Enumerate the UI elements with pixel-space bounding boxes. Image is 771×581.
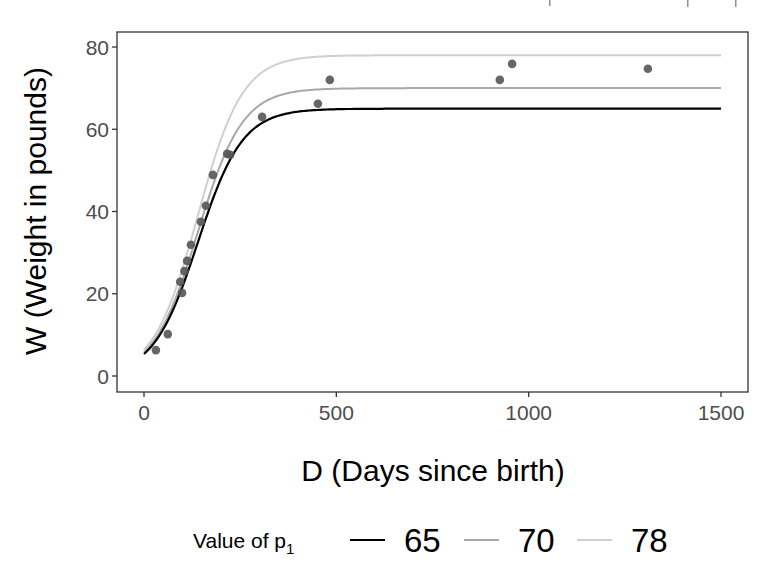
data-points bbox=[152, 60, 653, 355]
data-point bbox=[152, 346, 161, 355]
legend-label: 78 bbox=[631, 522, 668, 559]
data-point bbox=[178, 289, 187, 298]
legend-entry-78: 78 bbox=[577, 522, 668, 559]
y-tick-label: 20 bbox=[86, 282, 109, 305]
data-point bbox=[197, 218, 206, 227]
data-point bbox=[202, 201, 211, 210]
fit-curve-p1-70 bbox=[144, 88, 721, 352]
legend-label: 70 bbox=[518, 522, 555, 559]
clipped-caption-fragment bbox=[549, 0, 737, 7]
data-point bbox=[258, 113, 267, 122]
legend-label: 65 bbox=[404, 522, 441, 559]
data-point bbox=[187, 241, 196, 250]
chart: 050010001500 020406080 D (Days since bir… bbox=[0, 0, 771, 581]
fit-curve-p1-78 bbox=[144, 55, 721, 350]
data-point bbox=[183, 257, 192, 266]
data-point bbox=[508, 60, 517, 69]
y-tick-label: 40 bbox=[86, 200, 109, 223]
data-point bbox=[314, 100, 323, 109]
x-tick-label: 0 bbox=[138, 401, 150, 424]
data-point bbox=[164, 330, 173, 339]
data-point bbox=[326, 76, 335, 85]
y-axis-ticks: 020406080 bbox=[86, 36, 117, 388]
data-point bbox=[176, 278, 185, 287]
legend-title: Value of p1 bbox=[193, 529, 294, 557]
data-point bbox=[209, 171, 218, 180]
legend: Value of p1 657078 bbox=[193, 522, 668, 559]
fitted-curves bbox=[144, 55, 721, 354]
x-tick-label: 1500 bbox=[698, 401, 745, 424]
data-point bbox=[496, 76, 505, 85]
x-axis-title: D (Days since birth) bbox=[301, 454, 564, 487]
y-tick-label: 60 bbox=[86, 118, 109, 141]
legend-entries: 657078 bbox=[350, 522, 668, 559]
fit-curve-p1-65 bbox=[144, 109, 721, 354]
legend-entry-65: 65 bbox=[350, 522, 441, 559]
x-axis-ticks: 050010001500 bbox=[138, 392, 744, 424]
data-point bbox=[226, 150, 235, 159]
x-tick-label: 1000 bbox=[505, 401, 552, 424]
y-tick-label: 80 bbox=[86, 36, 109, 59]
y-tick-label: 0 bbox=[97, 365, 109, 388]
data-point bbox=[644, 65, 653, 74]
legend-entry-70: 70 bbox=[464, 522, 555, 559]
y-axis-title: W (Weight in pounds) bbox=[19, 67, 52, 355]
chart-svg: 050010001500 020406080 D (Days since bir… bbox=[0, 0, 771, 581]
data-point bbox=[180, 267, 189, 276]
x-tick-label: 500 bbox=[319, 401, 354, 424]
plot-panel-border bbox=[117, 32, 748, 392]
